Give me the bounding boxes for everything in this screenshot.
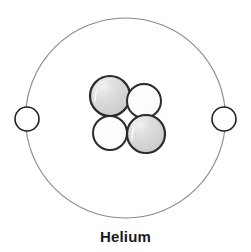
electron-left xyxy=(15,107,39,131)
nucleus xyxy=(90,76,165,153)
atom-model-canvas xyxy=(0,0,251,252)
element-name-label: Helium xyxy=(0,228,251,246)
electron-right xyxy=(212,107,236,131)
neutron-bottom-left xyxy=(93,116,127,150)
helium-atom-diagram: Helium xyxy=(0,0,251,252)
neutron-top-right xyxy=(127,84,161,118)
electron-shell-1 xyxy=(26,18,226,218)
